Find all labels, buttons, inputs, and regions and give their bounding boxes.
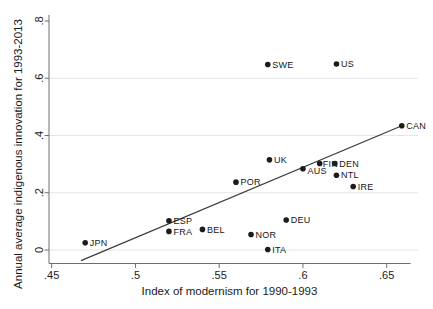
y-tick-label-0: 0	[33, 247, 45, 253]
data-point-marker-bel	[200, 227, 206, 233]
data-point-marker-jpn	[82, 240, 88, 246]
data-point-marker-uk	[267, 157, 273, 163]
y-tick-label-3: .6	[33, 74, 45, 83]
x-tick-label-1: .5	[131, 269, 140, 281]
data-point-label-can: CAN	[406, 121, 426, 131]
data-point-marker-den	[332, 161, 338, 167]
x-tick-label-3: .6	[298, 269, 307, 281]
scatter-plot-container: 0.2.4.6.8.45.5.55.6.65Index of modernism…	[0, 0, 433, 309]
data-point-marker-aus	[300, 166, 306, 172]
data-point-marker-swe	[265, 62, 271, 68]
x-tick-label-2: .55	[212, 269, 227, 281]
data-point-label-fra: FRA	[173, 227, 192, 237]
data-point-label-nor: NOR	[256, 230, 277, 240]
data-point-marker-fra	[166, 229, 172, 235]
data-point-marker-us	[334, 61, 340, 67]
x-tick-label-4: .65	[379, 269, 394, 281]
data-point-marker-por	[233, 179, 239, 185]
data-point-marker-can	[399, 123, 405, 129]
data-point-marker-nor	[248, 232, 254, 238]
data-point-label-por: POR	[240, 177, 261, 187]
data-point-label-jpn: JPN	[90, 238, 108, 248]
data-point-label-uk: UK	[274, 155, 287, 165]
data-point-marker-esp	[166, 218, 172, 224]
x-axis-title: Index of modernism for 1990-1993	[142, 285, 318, 297]
data-point-marker-fin	[317, 161, 323, 167]
data-point-label-us: US	[341, 59, 354, 69]
data-point-label-ire: IRE	[358, 182, 374, 192]
trend-line	[81, 126, 400, 260]
data-point-label-ntl: NTL	[341, 170, 359, 180]
y-axis-title: Annual average indigenous innovation for…	[12, 19, 24, 289]
data-point-label-den: DEN	[339, 159, 359, 169]
data-point-label-bel: BEL	[207, 225, 225, 235]
data-point-label-ita: ITA	[272, 245, 286, 255]
data-point-marker-ntl	[334, 172, 340, 178]
y-tick-label-1: .2	[33, 188, 45, 197]
data-point-marker-deu	[283, 217, 289, 223]
data-point-marker-ita	[265, 247, 271, 253]
y-tick-label-4: .8	[33, 16, 45, 25]
data-point-marker-ire	[350, 184, 356, 190]
x-tick-label-0: .45	[44, 269, 59, 281]
data-point-label-swe: SWE	[272, 60, 293, 70]
scatter-chart: 0.2.4.6.8.45.5.55.6.65Index of modernism…	[0, 0, 433, 309]
data-point-label-esp: ESP	[173, 216, 192, 226]
data-point-label-deu: DEU	[291, 215, 311, 225]
y-tick-label-2: .4	[33, 131, 45, 140]
